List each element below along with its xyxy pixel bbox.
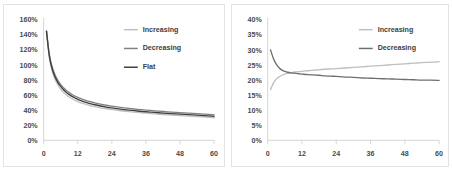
- y-tick-label: 0%: [251, 137, 262, 145]
- x-tick-label: 36: [367, 150, 375, 158]
- y-axis-labels-right: 0%5%10%15%20%25%30%35%40%: [247, 16, 262, 144]
- x-axis-labels-right: 01224364860: [266, 150, 443, 158]
- series-line-flat: [46, 31, 214, 116]
- y-axis-labels-left: 0%20%40%60%80%100%120%140%160%: [19, 16, 38, 144]
- y-tick-label: 35%: [247, 31, 262, 39]
- axis-lines-left: [44, 18, 214, 144]
- x-tick-label: 0: [266, 150, 270, 158]
- x-tick-label: 60: [210, 150, 218, 158]
- axis-lines-right: [268, 18, 439, 144]
- dual-chart-figure: 0%20%40%60%80%100%120%140%160% 012243648…: [0, 0, 452, 171]
- chart-panel-right: 0%5%10%15%20%25%30%35%40% 01224364860 In…: [231, 4, 449, 167]
- x-tick-label: 60: [435, 150, 443, 158]
- series-line-increasing: [271, 62, 440, 90]
- x-tick-label: 12: [74, 150, 82, 158]
- legend-label-decreasing: Decreasing: [378, 44, 416, 52]
- y-tick-label: 100%: [19, 62, 38, 70]
- y-tick-label: 40%: [23, 107, 38, 115]
- x-tick-label: 24: [332, 150, 340, 158]
- series-line-decreasing: [46, 31, 214, 115]
- y-tick-label: 140%: [19, 31, 38, 39]
- y-tick-label: 160%: [19, 16, 38, 24]
- x-tick-label: 48: [176, 150, 184, 158]
- series-line-decreasing: [271, 50, 440, 80]
- legend-left: IncreasingDecreasingFlat: [124, 26, 181, 72]
- y-tick-label: 25%: [247, 62, 262, 70]
- y-tick-label: 0%: [27, 137, 38, 145]
- y-tick-label: 40%: [247, 16, 262, 24]
- x-tick-label: 24: [108, 150, 116, 158]
- y-tick-label: 60%: [23, 92, 38, 100]
- y-tick-label: 5%: [251, 122, 262, 130]
- x-tick-label: 0: [42, 150, 46, 158]
- x-tick-label: 36: [142, 150, 150, 158]
- legend-label-increasing: Increasing: [378, 26, 414, 34]
- y-tick-label: 20%: [23, 122, 38, 130]
- line-chart-right: 0%5%10%15%20%25%30%35%40% 01224364860 In…: [232, 5, 448, 166]
- legend-label-increasing: Increasing: [143, 26, 179, 34]
- y-tick-label: 10%: [247, 107, 262, 115]
- y-tick-label: 20%: [247, 77, 262, 85]
- legend-right: IncreasingDecreasing: [359, 26, 416, 53]
- y-tick-label: 30%: [247, 47, 262, 55]
- legend-label-decreasing: Decreasing: [143, 44, 181, 52]
- series-line-increasing: [46, 31, 214, 118]
- series-lines-left: [46, 31, 214, 118]
- x-tick-label: 12: [298, 150, 306, 158]
- y-tick-label: 120%: [19, 47, 38, 55]
- line-chart-left: 0%20%40%60%80%100%120%140%160% 012243648…: [4, 5, 224, 166]
- y-tick-label: 15%: [247, 92, 262, 100]
- chart-panel-left: 0%20%40%60%80%100%120%140%160% 012243648…: [3, 4, 225, 167]
- series-lines-right: [271, 50, 440, 90]
- legend-label-flat: Flat: [143, 63, 156, 71]
- x-tick-label: 48: [401, 150, 409, 158]
- x-axis-labels-left: 01224364860: [42, 150, 218, 158]
- y-tick-label: 80%: [23, 77, 38, 85]
